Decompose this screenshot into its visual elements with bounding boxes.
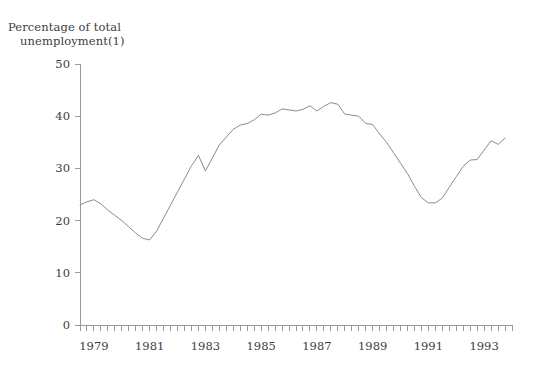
x-tick-label: 1985 — [247, 339, 276, 353]
x-tick-label: 1989 — [358, 339, 387, 353]
y-tick-label: 30 — [55, 161, 70, 175]
y-tick-label: 40 — [55, 109, 70, 123]
x-axis-ticks — [80, 325, 512, 331]
x-tick-label: 1987 — [302, 339, 331, 353]
x-tick-label: 1991 — [414, 339, 443, 353]
chart-plot-area: 19791981198319851987198919911993 0102030… — [0, 0, 534, 381]
x-axis-labels: 19791981198319851987198919911993 — [79, 339, 498, 353]
x-tick-label: 1983 — [191, 339, 220, 353]
y-tick-label: 10 — [55, 266, 70, 280]
y-tick-label: 20 — [55, 214, 70, 228]
y-tick-label: 0 — [63, 318, 70, 332]
unemployment-series-line — [80, 103, 505, 240]
x-tick-label: 1981 — [135, 339, 164, 353]
y-axis-ticks — [75, 64, 80, 325]
y-tick-label: 50 — [55, 57, 70, 71]
unemployment-duration-chart: Percentage of total unemployment(1) 1979… — [0, 0, 534, 381]
y-axis-labels: 01020304050 — [55, 57, 70, 332]
x-tick-label: 1993 — [469, 339, 498, 353]
x-tick-label: 1979 — [79, 339, 108, 353]
